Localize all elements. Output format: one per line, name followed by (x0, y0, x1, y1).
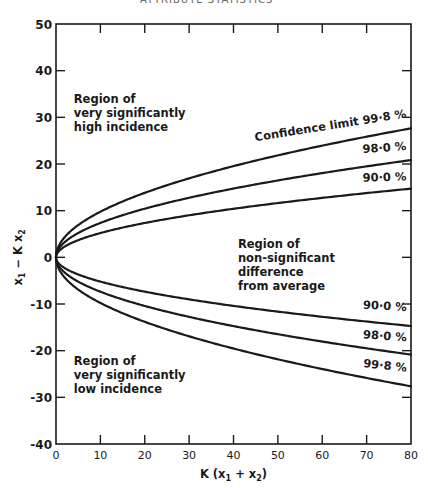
y-tick-label: 40 (35, 64, 52, 78)
y-tick-label: -30 (30, 391, 52, 405)
x-tick-label: 80 (404, 449, 418, 462)
y-tick-label: -10 (30, 298, 52, 312)
region-label-line: Region of (74, 354, 137, 368)
region-label-line: high incidence (74, 120, 168, 134)
y-tick-label: 30 (35, 111, 52, 125)
region-label: Region ofvery significantlylow incidence (74, 354, 186, 396)
confidence-curves (56, 128, 411, 386)
region-label-line: low incidence (74, 382, 162, 396)
x-tick-label: 0 (53, 449, 60, 462)
curve-label: Confidence limit 99·8 % (254, 106, 408, 144)
y-tick-label: -40 (30, 438, 52, 452)
curve-label: 98·0 % (362, 139, 407, 156)
region-label-line: very significantly (74, 368, 186, 382)
y-tick-label: 0 (44, 251, 52, 265)
region-label-line: from average (238, 279, 325, 293)
confidence-curve (56, 189, 411, 258)
region-label: Region ofvery significantlyhigh incidenc… (74, 92, 186, 134)
x-tick-label: 10 (93, 449, 107, 462)
confidence-curve (56, 257, 411, 326)
y-tick-label: 20 (35, 158, 52, 172)
curve-label: 90·0 % (363, 298, 408, 314)
curve-label: 90·0 % (362, 169, 407, 185)
y-tick-label: 10 (35, 204, 52, 218)
region-label-line: difference (238, 265, 304, 279)
curve-label: 98·0 % (363, 327, 408, 344)
confidence-limit-chart: 50403020100-10-20-30-4001020304050607080… (0, 0, 428, 488)
x-tick-label: 20 (138, 449, 152, 462)
region-label-line: Region of (238, 237, 301, 251)
y-tick-label: 50 (35, 18, 52, 32)
y-tick-label: -20 (30, 344, 52, 358)
x-tick-label: 30 (182, 449, 196, 462)
x-tick-label: 60 (315, 449, 329, 462)
region-label-line: Region of (74, 92, 137, 106)
x-tick-label: 70 (360, 449, 374, 462)
curve-label: 99·8 % (363, 356, 409, 375)
x-tick-label: 50 (271, 449, 285, 462)
y-axis-label: x1 − K x2 (11, 229, 27, 286)
x-axis-label: K (x1 + x2) (200, 467, 267, 483)
region-label-line: non-significant (238, 251, 335, 265)
region-label: Region ofnon-significantdifferencefrom a… (238, 237, 335, 293)
confidence-curve (56, 128, 411, 257)
region-label-line: very significantly (74, 106, 186, 120)
x-tick-label: 40 (227, 449, 241, 462)
